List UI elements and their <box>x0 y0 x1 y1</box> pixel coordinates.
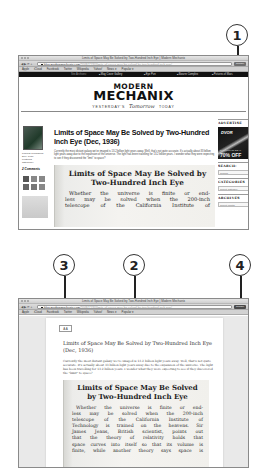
search-input[interactable]: Search <box>218 170 249 175</box>
article: Limits of Space May Be Solved by Two-Hun… <box>54 128 215 227</box>
browser-toolbar: ◀ ▶ ⟳ + blog.modernmechanix.com/2008/12/… <box>19 61 248 67</box>
scan-line: telescope of the California Institute of <box>65 202 210 208</box>
favicon-icon <box>41 307 43 309</box>
browser-window-standard: Limits of Space May Be Solved by Two-Hun… <box>18 55 249 230</box>
left-sidebar: Popular Mechanics Dec, 1936 Featured ast… <box>21 126 51 218</box>
bookmark-item[interactable]: iCloud <box>34 310 42 314</box>
callout-number: 1 <box>232 28 241 43</box>
magazine-cover-thumbnail[interactable] <box>23 126 43 150</box>
comments-link[interactable]: 2 Comments <box>22 167 51 171</box>
stumbleupon-icon[interactable] <box>31 184 37 190</box>
share-icons <box>23 176 51 190</box>
archives-select[interactable]: Select Month <box>218 202 249 207</box>
reader-button-active[interactable]: Reader <box>234 305 246 309</box>
callout-4: 4 <box>229 254 251 276</box>
bookmark-item[interactable]: Facebook <box>47 310 59 314</box>
nav-buttons[interactable]: ◀ ▶ ⟳ + <box>21 62 32 66</box>
bookmarks-bar: Apple iCloud Facebook Twitter Wikipedia … <box>19 310 248 315</box>
bookmark-item[interactable]: Apple <box>22 310 29 314</box>
reddit-icon[interactable] <box>39 176 45 182</box>
scan-line: that the theory of relativity holds that <box>72 435 203 441</box>
bookmark-item[interactable]: Yahoo! <box>94 310 103 314</box>
favicon-icon <box>41 64 43 66</box>
ad-line: 70% OFF <box>220 152 241 158</box>
reader-intro: Currently the most distant galaxy we've … <box>63 359 213 375</box>
scan-heading: Limits of Space May Be Solved by Two-Hun… <box>72 384 203 402</box>
bookmark-item[interactable]: Facebook <box>47 67 59 71</box>
bookmark-item[interactable]: Twitter <box>64 310 72 314</box>
advertisement-banner[interactable]: DVOR EXCLUSIVE DEAL 70% OFF <box>218 127 249 159</box>
bookmark-item[interactable]: Twitter <box>64 67 72 71</box>
font-size-control[interactable]: A A <box>59 325 72 332</box>
article-scan-image: Limits of Space May Be Solved by Two-Hun… <box>54 165 215 227</box>
scan-line: finite, while another theory says space … <box>72 448 203 454</box>
tagline: YESTERDAY'STomorrowTODAY <box>19 103 248 109</box>
digg-icon[interactable] <box>23 184 29 190</box>
callout-2: 2 <box>123 254 145 276</box>
address-bar[interactable]: blog.modernmechanix.com/2008/12/30/limit… <box>37 305 232 309</box>
bookmark-item[interactable]: Apple <box>22 67 29 71</box>
scan-line: space curves into itself so that its vol… <box>72 442 203 448</box>
search-heading: SEARCH: <box>218 162 249 168</box>
sidebar-ad[interactable] <box>22 196 48 218</box>
article-title: Limits of Space May Be Solved by Two-Hun… <box>54 128 215 146</box>
site-logo[interactable]: MODERN MECHANIX YESTERDAY'STomorrowTODAY <box>19 77 248 111</box>
callout-number: 4 <box>235 258 244 273</box>
categories-select[interactable]: Select Category <box>218 186 249 191</box>
tagline-left: YESTERDAY'S <box>92 105 125 109</box>
reader-scan-image: Limits of Space May Be Solved by Two-Hun… <box>63 380 209 468</box>
article-intro: Currently the most distant galaxy we've … <box>54 150 215 160</box>
bookmark-item[interactable]: News ▾ <box>107 67 117 71</box>
archives-heading: ARCHIVES <box>218 194 249 200</box>
tagline-script: Tomorrow <box>129 103 155 109</box>
callout-number: 3 <box>59 258 68 273</box>
browser-toolbar: ◀ ▶ ⟳ + blog.modernmechanix.com/2008/12/… <box>19 304 248 310</box>
callout-number: 2 <box>129 258 138 273</box>
bookmark-item[interactable]: Wikipedia <box>77 310 89 314</box>
callout-4-leader <box>240 276 242 298</box>
tag-link[interactable]: astronomy <box>22 161 51 164</box>
email-icon[interactable] <box>31 176 37 182</box>
header-divider <box>21 111 246 112</box>
right-sidebar: ADVERTISE DVOR EXCLUSIVE DEAL 70% OFF SE… <box>218 119 249 210</box>
nav-buttons[interactable]: ◀ ▶ ⟳ + <box>21 305 32 309</box>
scan-heading: Limits of Space May Be Solved by Two-Hun… <box>65 169 210 187</box>
bookmark-item[interactable]: Popular ▾ <box>122 310 134 314</box>
reader-title: Limits of Space May Be Solved by Two-Hun… <box>63 340 213 354</box>
advertise-heading: ADVERTISE <box>218 119 249 125</box>
bookmark-item[interactable]: Popular ▾ <box>122 67 134 71</box>
reader-button[interactable]: Reader <box>234 62 246 66</box>
ad-brand: DVOR <box>221 130 233 135</box>
categories-heading: CATEGORIES <box>218 178 249 184</box>
logo-main: MECHANIX <box>19 88 248 103</box>
browser-window-reader-mode: Limits of Space May Be Solved by Two-Hun… <box>18 298 249 468</box>
facebook-icon[interactable] <box>23 176 29 182</box>
address-bar[interactable]: blog.modernmechanix.com/2008/12/30/limit… <box>37 62 232 66</box>
bookmark-item[interactable]: Yahoo! <box>94 67 103 71</box>
share-icon[interactable] <box>39 184 45 190</box>
bookmark-item[interactable]: Wikipedia <box>77 67 89 71</box>
reader-article: A A Limits of Space May Be Solved by Two… <box>46 318 223 468</box>
bookmark-item[interactable]: iCloud <box>34 67 42 71</box>
callout-1: 1 <box>226 24 248 46</box>
bookmark-item[interactable]: News ▾ <box>107 310 117 314</box>
callout-3: 3 <box>53 254 75 276</box>
tagline-right: TODAY <box>159 105 175 109</box>
